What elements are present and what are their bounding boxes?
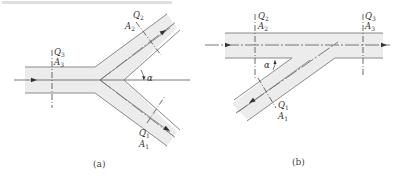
cropped-text-line — [2, 1, 172, 4]
panel-a-label-a2: A2 — [124, 21, 135, 32]
panel-b-caption: (b) — [292, 157, 305, 167]
panel-b-diagram — [205, 14, 390, 121]
panel-a-caption: (a) — [93, 159, 105, 169]
panel-b-label-a1: A1 — [277, 111, 288, 122]
panel-a-label-a1: A1 — [138, 139, 149, 150]
pipe-junction-figure: Q3 A3 Q2 A2 Q1 A1 α (a) — [0, 0, 401, 179]
panel-b-label-q1: Q1 — [278, 100, 289, 111]
panel-a-diagram — [14, 14, 190, 146]
panel-a-label-q2: Q2 — [133, 10, 144, 21]
panel-a-label-a3: A3 — [53, 57, 64, 68]
panel-b-main-pipe-body — [225, 33, 383, 58]
panel-b-label-a3: A3 — [364, 21, 375, 32]
panel-a-label-alpha: α — [147, 73, 153, 83]
panel-b-label-alpha: α — [264, 60, 270, 70]
panel-b-label-a2: A2 — [257, 21, 268, 32]
panel-b-outlet-arrow-icon — [381, 43, 387, 47]
